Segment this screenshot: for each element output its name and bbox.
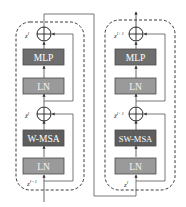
layer-ln: LN (115, 78, 156, 94)
label-middle: ẑl (24, 111, 30, 120)
layer-ln: LN (23, 78, 64, 94)
layer-label: SW-MSA (119, 134, 153, 144)
layer-ln: LN (115, 158, 156, 174)
block-right: MLP LN SW-MSA LN zl+1 ẑl+1 zl (105, 12, 175, 190)
layer-mlp: MLP (115, 49, 156, 65)
layer-mlp: MLP (23, 49, 64, 65)
label-input: zl−1 (26, 179, 37, 188)
layer-label: LN (129, 162, 142, 172)
layer-label: MLP (126, 53, 146, 63)
layer-label: LN (37, 162, 50, 172)
layer-label: LN (129, 82, 142, 92)
adder-icon (129, 107, 143, 121)
layer-w-msa: W-MSA (23, 130, 64, 146)
label-middle: ẑl+1 (113, 111, 124, 120)
swin-transformer-diagram: MLP LN W-MSA LN zl ẑl zl−1 (0, 0, 186, 207)
layer-label: LN (37, 82, 50, 92)
label-output: zl+1 (113, 31, 124, 40)
adder-icon (37, 27, 51, 41)
layer-sw-msa: SW-MSA (115, 130, 156, 146)
label-input: zl (123, 180, 129, 189)
layer-ln: LN (23, 158, 64, 174)
adder-icon (129, 27, 143, 41)
block-left: MLP LN W-MSA LN zl ẑl zl−1 (16, 22, 84, 202)
layer-label: MLP (34, 53, 54, 63)
adder-icon (37, 107, 51, 121)
label-output: zl (24, 31, 30, 40)
layer-label: W-MSA (27, 134, 59, 144)
